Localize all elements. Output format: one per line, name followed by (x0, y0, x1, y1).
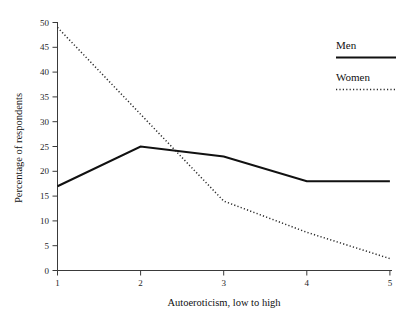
y-tick-label: 15 (40, 191, 50, 201)
x-tick-label: 3 (221, 278, 226, 288)
chart-container: 0 5 10 15 20 25 30 35 40 45 50 1 2 3 4 5… (0, 0, 417, 325)
y-tick-label: 40 (40, 67, 50, 77)
line-chart-figure: 0 5 10 15 20 25 30 35 40 45 50 1 2 3 4 5… (0, 0, 417, 325)
x-tick-label: 5 (388, 278, 393, 288)
y-tick-label: 10 (40, 216, 50, 226)
y-axis-title: Percentage of respondents (13, 93, 24, 203)
y-tick-label: 5 (45, 241, 50, 251)
y-tick-label: 0 (45, 266, 50, 276)
y-tick-label: 20 (40, 166, 50, 176)
x-tick-label: 1 (55, 278, 60, 288)
y-tick-label: 25 (40, 142, 50, 152)
y-tick-label: 35 (40, 92, 50, 102)
y-tick-label: 45 (40, 42, 50, 52)
x-tick-label: 4 (305, 278, 310, 288)
x-axis-title: Autoeroticism, low to high (167, 297, 281, 308)
y-tick-label: 50 (40, 18, 50, 28)
x-tick-label: 2 (138, 278, 143, 288)
legend-label-women: Women (336, 71, 370, 83)
y-tick-label: 30 (40, 117, 50, 127)
legend-label-men: Men (336, 39, 357, 51)
